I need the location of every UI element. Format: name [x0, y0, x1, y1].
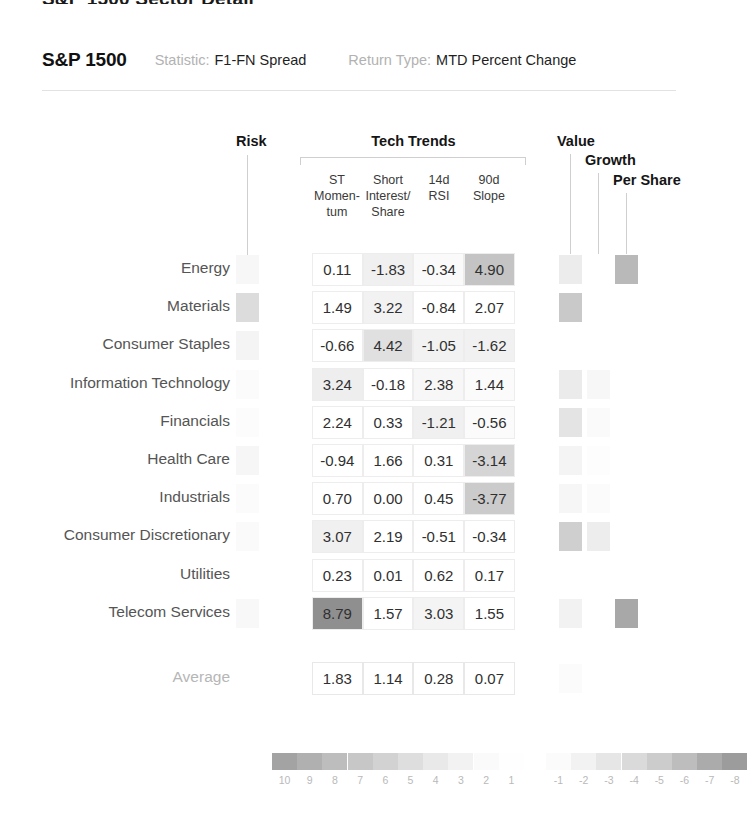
risk-swatch[interactable] — [236, 446, 259, 475]
heatmap-cell[interactable]: 4.90 — [464, 253, 515, 286]
style-swatch-per-share[interactable] — [615, 484, 638, 513]
style-swatch-growth[interactable] — [587, 293, 610, 322]
heatmap-cell[interactable]: 0.11 — [312, 253, 363, 286]
style-swatch-growth[interactable] — [587, 408, 610, 437]
heatmap-cell[interactable]: 0.17 — [464, 559, 515, 592]
heatmap-cell[interactable]: 2.19 — [363, 520, 414, 553]
heatmap-cell[interactable]: 1.49 — [312, 291, 363, 324]
style-swatch-value[interactable] — [559, 522, 582, 551]
style-swatch-per-share[interactable] — [615, 370, 638, 399]
style-swatch-growth[interactable] — [587, 561, 610, 590]
column-header-3[interactable]: 90dSlope — [464, 172, 514, 204]
style-swatch-per-share[interactable] — [615, 293, 638, 322]
heatmap-cell[interactable]: -0.94 — [312, 444, 363, 477]
style-swatch-growth[interactable] — [587, 255, 610, 284]
heatmap-cell[interactable]: 8.79 — [312, 597, 363, 630]
row-label-sector[interactable]: Industrials — [0, 488, 230, 506]
average-cell[interactable]: 0.07 — [464, 662, 515, 695]
heatmap-cell[interactable]: 4.42 — [363, 329, 414, 362]
style-swatch-value[interactable] — [559, 561, 582, 590]
heatmap-cell[interactable]: 3.22 — [363, 291, 414, 324]
risk-swatch[interactable] — [236, 484, 259, 513]
row-label-sector[interactable]: Health Care — [0, 450, 230, 468]
heatmap-cell[interactable]: 1.44 — [464, 368, 515, 401]
average-cell[interactable]: 1.14 — [363, 662, 414, 695]
column-header-1[interactable]: ShortInterest/Share — [363, 172, 413, 220]
heatmap-cell[interactable]: 0.01 — [363, 559, 414, 592]
row-label-sector[interactable]: Telecom Services — [0, 603, 230, 621]
heatmap-cell[interactable]: -3.77 — [464, 482, 515, 515]
heatmap-cell[interactable]: 1.55 — [464, 597, 515, 630]
style-swatch-growth[interactable] — [587, 370, 610, 399]
row-label-sector[interactable]: Information Technology — [0, 374, 230, 392]
style-swatch-value[interactable] — [559, 484, 582, 513]
heatmap-cell[interactable]: 0.70 — [312, 482, 363, 515]
style-swatch-per-share[interactable] — [615, 255, 638, 284]
heatmap-cell[interactable]: -0.56 — [464, 406, 515, 439]
style-swatch-growth[interactable] — [587, 522, 610, 551]
risk-swatch[interactable] — [236, 255, 259, 284]
heatmap-cell[interactable]: -1.21 — [413, 406, 464, 439]
heatmap-cell[interactable]: 0.23 — [312, 559, 363, 592]
heatmap-cell[interactable]: 1.57 — [363, 597, 414, 630]
style-swatch-value[interactable] — [559, 293, 582, 322]
heatmap-cell[interactable]: 0.31 — [413, 444, 464, 477]
heatmap-cell[interactable]: -3.14 — [464, 444, 515, 477]
risk-swatch[interactable] — [236, 331, 259, 360]
heatmap-cell[interactable]: 3.07 — [312, 520, 363, 553]
risk-swatch[interactable] — [236, 561, 259, 590]
row-label-sector[interactable]: Consumer Discretionary — [0, 526, 230, 544]
heatmap-cell[interactable]: 0.00 — [363, 482, 414, 515]
heatmap-cell[interactable]: 3.24 — [312, 368, 363, 401]
style-swatch-per-share[interactable] — [615, 561, 638, 590]
heatmap-cell[interactable]: -0.66 — [312, 329, 363, 362]
risk-swatch[interactable] — [236, 599, 259, 628]
heatmap-cell[interactable]: -0.51 — [413, 520, 464, 553]
row-label-sector[interactable]: Consumer Staples — [0, 335, 230, 353]
style-swatch-value[interactable] — [559, 408, 582, 437]
heatmap-cell[interactable]: 2.07 — [464, 291, 515, 324]
style-swatch-per-share[interactable] — [615, 599, 638, 628]
style-swatch-value[interactable] — [559, 599, 582, 628]
heatmap-cell[interactable]: -0.34 — [413, 253, 464, 286]
statistic-value[interactable]: F1-FN Spread — [214, 52, 306, 68]
style-swatch-per-share[interactable] — [615, 331, 638, 360]
risk-swatch[interactable] — [236, 370, 259, 399]
style-swatch-value[interactable] — [559, 370, 582, 399]
style-swatch-value[interactable] — [559, 331, 582, 360]
heatmap-cell[interactable]: -0.18 — [363, 368, 414, 401]
heatmap-cell[interactable]: -1.83 — [363, 253, 414, 286]
style-swatch-growth[interactable] — [587, 331, 610, 360]
style-swatch-growth[interactable] — [587, 446, 610, 475]
row-label-sector[interactable]: Materials — [0, 297, 230, 315]
style-swatch-per-share[interactable] — [615, 408, 638, 437]
style-swatch-growth[interactable] — [587, 484, 610, 513]
row-label-sector[interactable]: Financials — [0, 412, 230, 430]
style-swatch-growth[interactable] — [587, 599, 610, 628]
style-swatch-value[interactable] — [559, 255, 582, 284]
heatmap-cell[interactable]: 0.45 — [413, 482, 464, 515]
heatmap-cell[interactable]: 0.33 — [363, 406, 414, 439]
column-header-2[interactable]: 14dRSI — [414, 172, 464, 204]
heatmap-cell[interactable]: 3.03 — [413, 597, 464, 630]
average-cell[interactable]: 0.28 — [413, 662, 464, 695]
risk-swatch[interactable] — [236, 293, 259, 322]
average-cell[interactable]: 1.83 — [312, 662, 363, 695]
style-swatch-per-share[interactable] — [615, 522, 638, 551]
risk-swatch[interactable] — [236, 408, 259, 437]
heatmap-cell[interactable]: 2.24 — [312, 406, 363, 439]
heatmap-cell[interactable]: 0.62 — [413, 559, 464, 592]
risk-swatch[interactable] — [236, 522, 259, 551]
column-header-0[interactable]: STMomen-tum — [312, 172, 362, 220]
heatmap-cell[interactable]: -0.84 — [413, 291, 464, 324]
heatmap-cell[interactable]: -0.34 — [464, 520, 515, 553]
heatmap-cell[interactable]: 2.38 — [413, 368, 464, 401]
style-swatch-value[interactable] — [559, 446, 582, 475]
heatmap-cell[interactable]: 1.66 — [363, 444, 414, 477]
heatmap-cell[interactable]: -1.62 — [464, 329, 515, 362]
style-swatch-per-share[interactable] — [615, 446, 638, 475]
row-label-sector[interactable]: Energy — [0, 259, 230, 277]
row-label-sector[interactable]: Utilities — [0, 565, 230, 583]
return-type-value[interactable]: MTD Percent Change — [436, 52, 576, 68]
heatmap-cell[interactable]: -1.05 — [413, 329, 464, 362]
